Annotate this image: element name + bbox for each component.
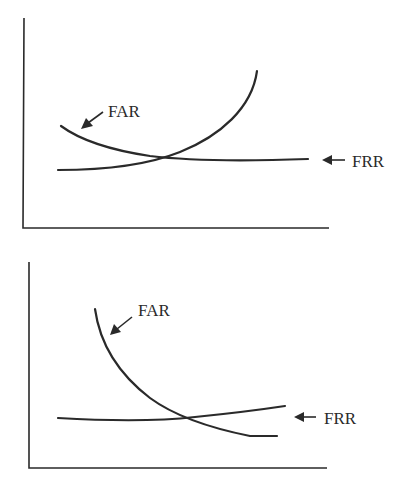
bottom-chart: FAR FRR xyxy=(29,262,357,468)
top-frr-arrow-icon xyxy=(322,155,345,165)
figure: FAR FRR FAR FRR xyxy=(0,0,402,482)
bottom-frr-curve xyxy=(58,406,285,420)
top-frr-label: FRR xyxy=(352,152,385,171)
top-far-curve xyxy=(61,126,308,160)
top-far-label: FAR xyxy=(108,102,140,121)
bottom-frr-arrow-icon xyxy=(294,412,316,422)
bottom-far-arrow-icon xyxy=(110,317,132,335)
bottom-frr-label: FRR xyxy=(324,409,357,428)
top-far-arrow-icon xyxy=(81,112,103,129)
bottom-far-label: FAR xyxy=(138,301,170,320)
bottom-axes xyxy=(29,262,327,468)
top-axes xyxy=(23,18,329,228)
top-chart: FAR FRR xyxy=(23,18,385,228)
